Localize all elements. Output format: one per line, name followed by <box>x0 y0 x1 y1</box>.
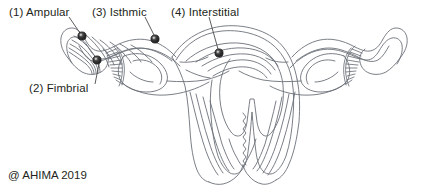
leader-line-ampular <box>69 17 80 33</box>
marker-isthmic-highlight <box>153 37 155 39</box>
marker-interstitial <box>215 49 223 57</box>
right-ovary-outline <box>301 54 350 92</box>
interstitial-segment-left <box>180 57 208 62</box>
myometrium-striation-r3 <box>257 97 282 171</box>
cavity-texture-4 <box>213 67 267 78</box>
cervical-canal-folds <box>243 113 246 165</box>
leader-line-isthmic <box>145 17 154 35</box>
marker-fimbrial <box>93 56 101 64</box>
marker-ampular-highlight <box>80 34 82 36</box>
figure-page: (1) Ampular (3) Isthmic (4) Interstitial… <box>0 0 431 191</box>
marker-interstitial-highlight <box>217 51 219 53</box>
right-tube-lumen <box>296 46 389 61</box>
anatomy-diagram <box>0 0 431 191</box>
left-suspensory-fold <box>186 70 210 78</box>
left-ovary-texture-1 <box>133 60 162 84</box>
cervical-canal-left <box>229 139 243 167</box>
copyright-notice: @ AHIMA 2019 <box>8 169 87 181</box>
marker-fimbrial-highlight <box>95 58 97 60</box>
right-ovary-texture-1 <box>306 60 335 84</box>
right-ampulla-tip <box>360 49 400 74</box>
uterus-outline-group <box>61 26 407 185</box>
callout-label-isthmic: (3) Isthmic <box>92 6 147 18</box>
cervix-left-wall <box>209 165 243 184</box>
callout-label-interstitial: (4) Interstitial <box>171 6 239 18</box>
marker-ampular <box>78 32 86 40</box>
marker-isthmic <box>151 35 159 43</box>
endometrial-cavity <box>186 43 283 136</box>
left-ovary-outline <box>118 54 167 92</box>
uterus-fundus-dome <box>172 26 297 79</box>
callout-label-fimbrial: (2) Fimbrial <box>29 82 88 94</box>
right-ovary-texture-2 <box>315 72 338 82</box>
left-ovary-texture-2 <box>130 72 153 82</box>
callout-label-ampular: (1) Ampular <box>9 6 70 18</box>
uterus-left-wall <box>172 57 209 182</box>
